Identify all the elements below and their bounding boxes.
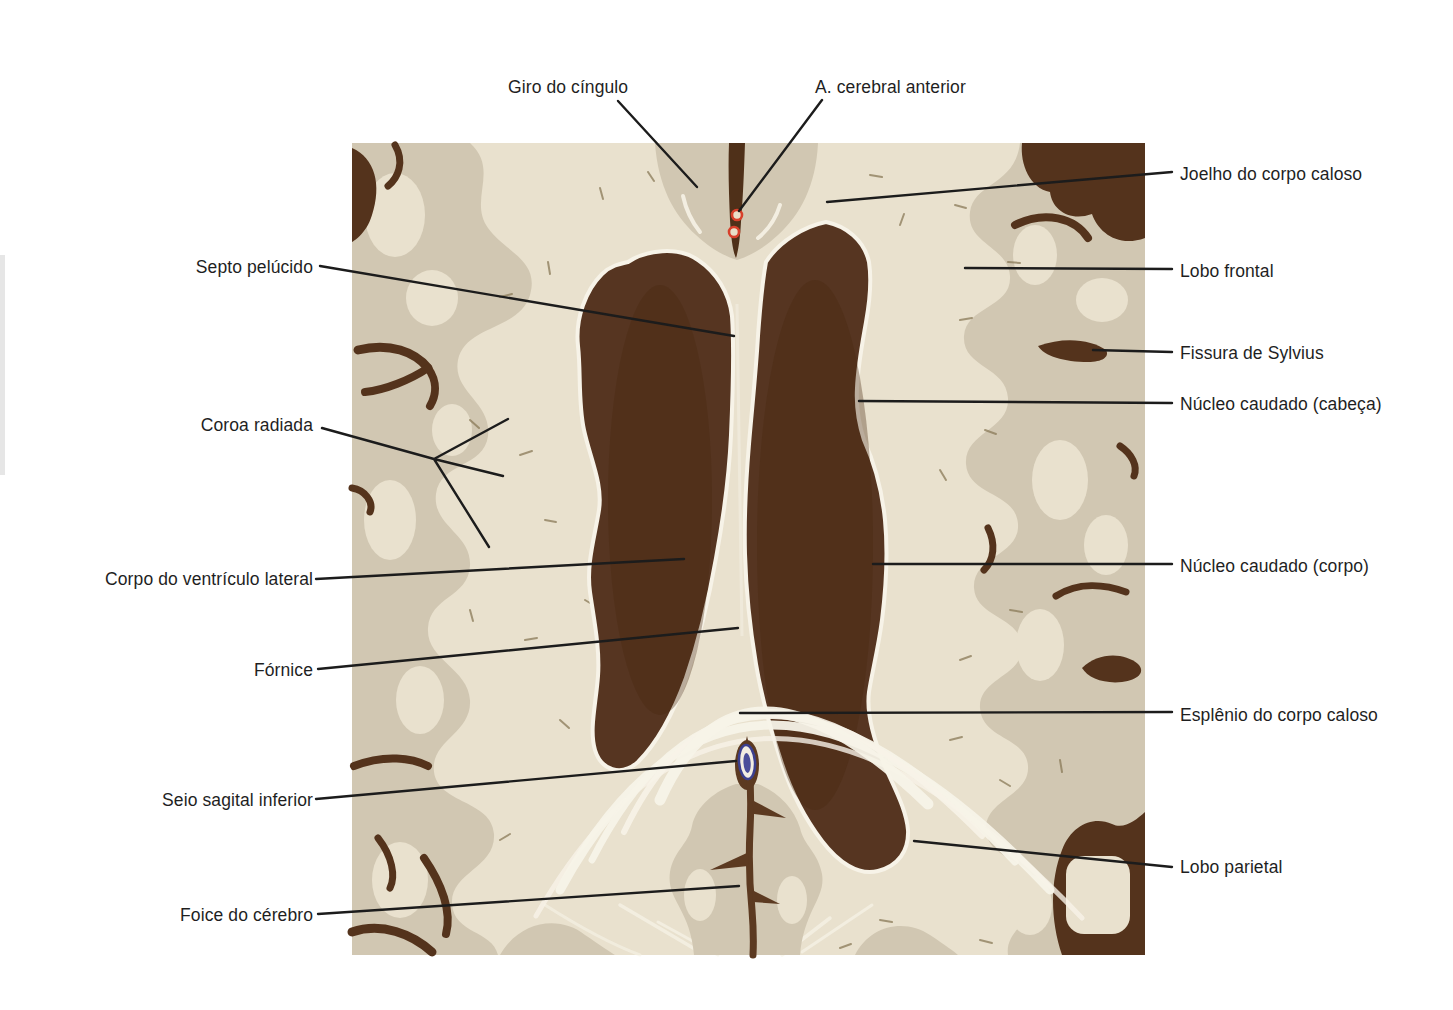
left-mass-shading [608,285,712,715]
label-a-cerebral-anterior: A. cerebral anterior [815,77,966,97]
label-septo-pelucido: Septo pelúcido [196,257,313,277]
leader-esplenio-do-corpo-caloso [740,712,1172,713]
parietal-gyrus-core [1066,856,1130,934]
scan-edge-smudge [0,255,5,475]
figure-stage: Giro do cíngulo A. cerebral anterior Sep… [0,0,1453,1010]
label-giro-do-cingulo: Giro do cíngulo [508,77,628,97]
label-nucleo-caudado-cabeca: Núcleo caudado (cabeça) [1180,394,1382,414]
label-foice-do-cerebro: Foice do cérebro [180,905,313,925]
label-fornice: Fórnice [254,660,313,680]
leader-lobo-frontal [965,268,1172,269]
label-seio-sagital-inferior: Seio sagital inferior [162,790,313,810]
label-lobo-frontal: Lobo frontal [1180,261,1274,281]
label-fissura-de-sylvius: Fissura de Sylvius [1180,343,1324,363]
label-esplenio-do-corpo-caloso: Esplênio do corpo caloso [1180,705,1378,725]
label-nucleo-caudado-corpo: Núcleo caudado (corpo) [1180,556,1369,576]
label-joelho-do-corpo-caloso: Joelho do corpo caloso [1180,164,1362,184]
label-lobo-parietal: Lobo parietal [1180,857,1283,877]
label-corpo-do-ventriculo-lateral: Corpo do ventrículo lateral [105,569,313,589]
label-coroa-radiada: Coroa radiada [201,415,313,435]
